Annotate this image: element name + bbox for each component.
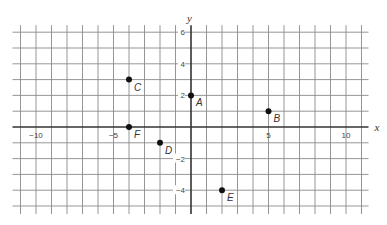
point-marker	[157, 140, 163, 146]
y-tick-label: −4	[176, 186, 186, 195]
y-axis-label: y	[186, 12, 192, 24]
point-label: D	[165, 145, 172, 156]
point-label: A	[195, 97, 203, 108]
coordinate-plane: xy −10−5510642−2−4 ABCDEF	[0, 0, 387, 225]
point-label: C	[134, 82, 142, 93]
point-marker	[126, 77, 132, 83]
point-d: D	[157, 140, 172, 156]
y-tick-label: 4	[181, 60, 186, 69]
x-axis-label: x	[374, 121, 380, 133]
x-tick-label: −5	[109, 131, 119, 140]
y-tick-label: −2	[176, 155, 186, 164]
point-marker	[188, 92, 194, 98]
point-marker	[219, 187, 225, 193]
y-tick-label: 6	[181, 28, 186, 37]
x-tick-label: 5	[266, 131, 271, 140]
x-tick-label: 10	[342, 131, 351, 140]
point-e: E	[219, 187, 234, 203]
point-label: B	[274, 113, 281, 124]
point-label: F	[134, 129, 141, 140]
point-marker	[126, 124, 132, 130]
point-b: B	[266, 108, 281, 124]
point-c: C	[126, 77, 142, 93]
point-label: E	[227, 192, 234, 203]
point-marker	[266, 108, 272, 114]
x-tick-label: −10	[29, 131, 43, 140]
y-tick-label: 2	[181, 91, 186, 100]
axes: xy	[13, 12, 380, 214]
